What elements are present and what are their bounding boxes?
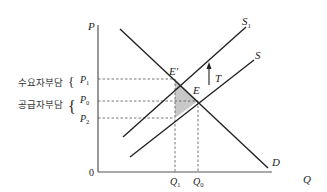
supply-after-tax-label: S1 — [242, 15, 252, 30]
p1-label: P1 — [79, 74, 89, 86]
e-label: E — [192, 84, 200, 96]
p2-label: P2 — [79, 113, 89, 125]
e-prime-label: E′ — [168, 65, 179, 77]
producer-burden-label: 공급자부담 — [18, 99, 63, 110]
tax-incidence-diagram: P Q 0 D S S1 E′ E T P1 P0 P2 Q1 Q0 수요자부담… — [0, 0, 327, 192]
q0-label: Q0 — [193, 176, 203, 188]
p0-label: P0 — [79, 94, 89, 106]
consumer-burden-label: 수요자부담 — [18, 77, 63, 88]
q1-label: Q1 — [170, 176, 180, 188]
demand-label: D — [271, 156, 280, 168]
tax-label: T — [215, 72, 222, 84]
x-axis-label: Q — [303, 173, 311, 185]
supply-label: S — [255, 49, 261, 61]
supply-after-tax-curve — [123, 27, 246, 137]
producer-brace: { — [68, 98, 76, 115]
y-axis-label: P — [87, 20, 95, 32]
consumer-brace: { — [68, 74, 74, 89]
tax-shift-arrow-icon — [207, 62, 212, 85]
origin-label: 0 — [89, 167, 94, 178]
